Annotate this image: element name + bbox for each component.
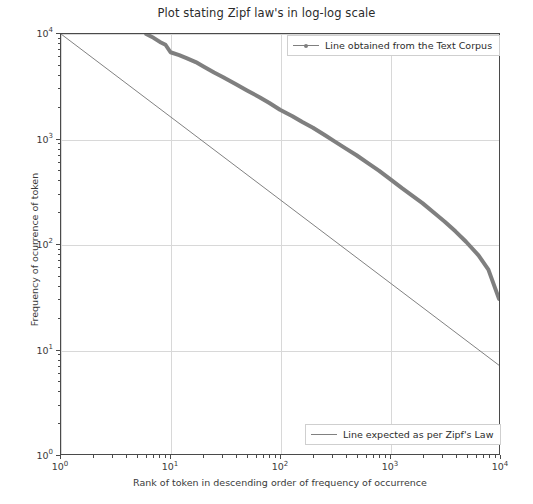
page-title: Plot stating Zipf law's in log-log scale (0, 6, 533, 20)
y-tick-minor (58, 143, 61, 144)
x-tick-label: 104 (492, 461, 509, 472)
legend-text-corpus: Line obtained from the Text Corpus (287, 35, 500, 56)
y-tick-major (56, 350, 60, 351)
y-tick-minor (58, 267, 61, 268)
x-tick-label: 102 (272, 461, 289, 472)
series-line-0 (146, 34, 499, 299)
x-tick-minor (256, 455, 257, 458)
x-tick-minor (476, 455, 477, 458)
x-tick-minor (275, 455, 276, 458)
y-tick-minor (58, 360, 61, 361)
x-tick-minor (146, 455, 147, 458)
y-tick-major (56, 244, 60, 245)
y-tick-minor (58, 170, 61, 171)
figure: Plot stating Zipf law's in log-log scale… (0, 0, 533, 504)
x-tick-minor (423, 455, 424, 458)
x-tick-major (390, 455, 391, 459)
x-tick-minor (379, 455, 380, 458)
y-tick-minor (58, 43, 61, 44)
x-tick-minor (222, 455, 223, 458)
x-tick-minor (346, 455, 347, 458)
y-tick-label: 104 (36, 28, 53, 39)
x-tick-major (60, 455, 61, 459)
x-tick-minor (357, 455, 358, 458)
y-tick-minor (58, 149, 61, 150)
x-tick-minor (165, 455, 166, 458)
y-tick-minor (58, 155, 61, 156)
y-tick-minor (58, 49, 61, 50)
x-tick-minor (373, 455, 374, 458)
y-axis-title: Frequency of ocurrence of token (29, 130, 40, 370)
x-tick-minor (137, 455, 138, 458)
y-tick-minor (58, 162, 61, 163)
y-tick-minor (58, 318, 61, 319)
x-tick-label: 101 (162, 461, 179, 472)
legend-zipf-law: Line expected as per Zipf's Law (305, 424, 501, 445)
x-tick-minor (247, 455, 248, 458)
legend-label-text-corpus: Line obtained from the Text Corpus (325, 40, 492, 51)
x-tick-major (500, 455, 501, 459)
y-tick-minor (58, 107, 61, 108)
legend-line-icon (311, 430, 337, 440)
x-tick-label: 103 (382, 461, 399, 472)
x-tick-minor (236, 455, 237, 458)
x-tick-minor (159, 455, 160, 458)
legend-label-zipf-law: Line expected as per Zipf's Law (343, 429, 493, 440)
x-tick-minor (332, 455, 333, 458)
x-tick-minor (269, 455, 270, 458)
y-tick-minor (58, 373, 61, 374)
y-tick-major (56, 139, 60, 140)
x-tick-minor (483, 455, 484, 458)
x-tick-major (280, 455, 281, 459)
x-tick-major (170, 455, 171, 459)
y-tick-major (56, 33, 60, 34)
x-tick-minor (126, 455, 127, 458)
y-tick-minor (58, 254, 61, 255)
plot-area (60, 33, 500, 455)
y-tick-minor (58, 65, 61, 66)
y-tick-minor (58, 56, 61, 57)
y-tick-minor (58, 381, 61, 382)
x-tick-minor (366, 455, 367, 458)
y-tick-minor (58, 249, 61, 250)
x-tick-minor (385, 455, 386, 458)
x-tick-minor (442, 455, 443, 458)
x-tick-minor (263, 455, 264, 458)
x-tick-minor (467, 455, 468, 458)
data-lines (61, 34, 499, 454)
x-tick-minor (153, 455, 154, 458)
y-tick-minor (58, 423, 61, 424)
y-tick-minor (58, 180, 61, 181)
y-tick-minor (58, 354, 61, 355)
y-tick-minor (58, 391, 61, 392)
y-tick-minor (58, 194, 61, 195)
y-tick-minor (58, 88, 61, 89)
x-tick-minor (112, 455, 113, 458)
y-tick-minor (58, 260, 61, 261)
y-tick-minor (58, 366, 61, 367)
x-tick-minor (495, 455, 496, 458)
x-tick-minor (456, 455, 457, 458)
x-tick-label: 100 (52, 461, 69, 472)
x-axis-title: Rank of token in descending order of fre… (60, 477, 500, 488)
legend-line-marker-icon (293, 41, 319, 51)
x-tick-minor (203, 455, 204, 458)
y-tick-minor (58, 405, 61, 406)
y-tick-minor (58, 286, 61, 287)
y-tick-minor (58, 212, 61, 213)
x-tick-minor (489, 455, 490, 458)
y-tick-minor (58, 299, 61, 300)
series-line-1 (61, 34, 499, 365)
x-tick-minor (313, 455, 314, 458)
x-tick-minor (93, 455, 94, 458)
y-tick-label: 100 (36, 450, 53, 461)
y-tick-minor (58, 276, 61, 277)
y-tick-minor (58, 75, 61, 76)
y-tick-minor (58, 38, 61, 39)
